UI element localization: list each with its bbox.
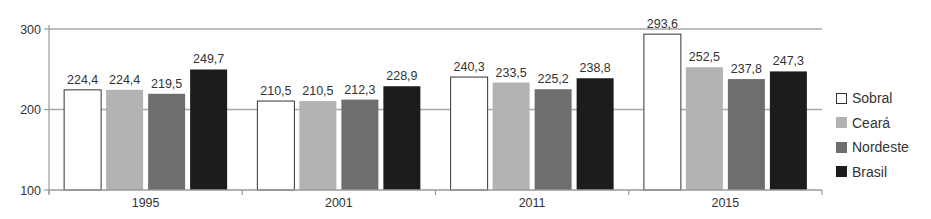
bar-ceará	[299, 101, 336, 190]
y-tick-label: 100	[20, 184, 41, 198]
legend-swatch-nordeste	[836, 142, 847, 153]
data-label: 210,5	[302, 84, 333, 98]
data-label: 219,5	[151, 77, 182, 91]
x-tick-label: 1995	[132, 196, 160, 210]
bar-ceará	[493, 83, 530, 190]
data-label: 238,8	[579, 61, 610, 75]
data-label: 224,4	[67, 73, 98, 87]
data-label: 210,5	[260, 84, 291, 98]
data-label: 252,5	[689, 50, 720, 64]
legend-label: Ceará	[852, 115, 890, 131]
bar-ceará	[106, 90, 143, 190]
legend-label: Sobral	[852, 90, 892, 106]
bar-nordeste	[148, 94, 185, 190]
bar-brasil	[190, 69, 227, 190]
x-axis: 1995200120112015	[49, 190, 822, 210]
legend-item-nordeste: Nordeste	[836, 135, 909, 160]
data-label: 233,5	[495, 66, 526, 80]
bar-sobral	[644, 34, 681, 190]
legend-swatch-sobral	[836, 93, 847, 104]
legend-label: Nordeste	[852, 139, 909, 155]
x-tick-label: 2015	[711, 196, 739, 210]
legend-swatch-brasil	[836, 166, 847, 177]
bar-ceará	[686, 67, 723, 190]
legend-item-brasil: Brasil	[836, 160, 909, 185]
bar-nordeste	[728, 79, 765, 190]
y-tick-label: 200	[20, 103, 41, 117]
bar-sobral	[451, 77, 488, 190]
legend-item-sobral: Sobral	[836, 86, 909, 111]
data-label: 228,9	[386, 69, 417, 83]
legend-label: Brasil	[852, 164, 887, 180]
bar-nordeste	[341, 100, 378, 190]
data-label: 212,3	[344, 83, 375, 97]
x-tick-label: 2011	[519, 196, 546, 210]
y-tick-label: 300	[20, 23, 41, 37]
bar-nordeste	[535, 89, 572, 190]
data-label: 225,2	[537, 72, 568, 86]
bar-brasil	[770, 71, 807, 190]
data-label: 237,8	[731, 62, 762, 76]
data-label: 240,3	[453, 60, 484, 74]
x-tick-label: 2001	[325, 196, 353, 210]
bars: 224,4224,4219,5249,7210,5210,5212,3228,9…	[64, 17, 807, 190]
data-label: 249,7	[193, 52, 224, 66]
data-label: 293,6	[647, 17, 678, 31]
data-label: 247,3	[773, 54, 804, 68]
bar-sobral	[64, 90, 101, 190]
legend: Sobral Ceará Nordeste Brasil	[836, 86, 909, 184]
legend-swatch-ceara	[836, 117, 847, 128]
legend-item-ceara: Ceará	[836, 111, 909, 136]
bar-sobral	[257, 101, 294, 190]
bar-brasil	[383, 86, 420, 190]
y-axis: 100200300	[20, 23, 49, 198]
bar-brasil	[577, 78, 614, 190]
bar-chart: 100200300 224,4224,4219,5249,7210,5210,5…	[0, 0, 931, 219]
data-label: 224,4	[109, 73, 140, 87]
